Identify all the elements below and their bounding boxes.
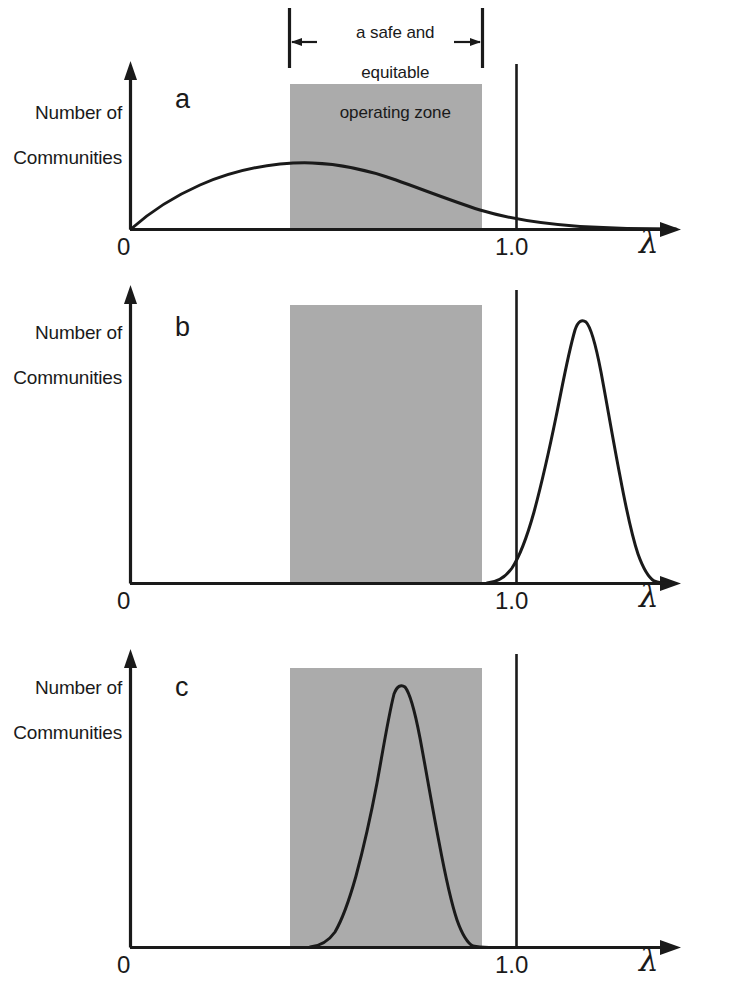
operating-zone-caption: a safe and equitable operating zone (286, 3, 486, 143)
panel-b-ylabel-line-2: Communities (13, 367, 122, 388)
panel-c-xtick-0: 0 (117, 951, 130, 979)
zone-caption-line-2: equitable (361, 63, 429, 82)
panel-a-y-axis-label: Number of Communities (0, 80, 122, 192)
panel-c-x-axis-label: λ (639, 942, 659, 979)
panel-c (124, 649, 681, 955)
panel-a-xtick-0: 0 (117, 233, 130, 261)
panel-b-ylabel-line-1: Number of (35, 322, 122, 343)
panel-c-y-axis-label: Number of Communities (0, 655, 122, 767)
panel-b-xtick-0: 0 (117, 587, 130, 615)
panel-a-ylabel-line-2: Communities (13, 147, 122, 168)
panel-c-ylabel-line-1: Number of (35, 677, 122, 698)
panel-c-xtick-1: 1.0 (495, 951, 528, 979)
panel-c-letter: c (175, 672, 189, 704)
panel-b-y-axis-label: Number of Communities (0, 300, 122, 412)
panel-b-letter: b (175, 312, 190, 344)
panel-a-xtick-1: 1.0 (495, 233, 528, 261)
panel-b-distribution-curve (487, 321, 670, 584)
panel-a-letter: a (175, 84, 190, 116)
panel-b-x-axis-label: λ (639, 578, 659, 615)
panel-b-shaded-zone (290, 305, 482, 583)
panel-a-y-axis (124, 61, 137, 230)
panel-a-x-axis-label: λ (639, 224, 659, 261)
panel-b-y-axis (124, 285, 137, 584)
zone-caption-line-3: operating zone (340, 103, 451, 122)
panel-b (124, 285, 681, 591)
panel-a-ylabel-line-1: Number of (35, 102, 122, 123)
panel-c-y-axis (124, 649, 137, 948)
panel-b-xtick-1: 1.0 (495, 587, 528, 615)
panel-c-ylabel-line-2: Communities (13, 722, 122, 743)
zone-caption-line-1: a safe and (356, 23, 434, 42)
figure-container: a safe and equitable operating zone Numb… (0, 0, 739, 994)
